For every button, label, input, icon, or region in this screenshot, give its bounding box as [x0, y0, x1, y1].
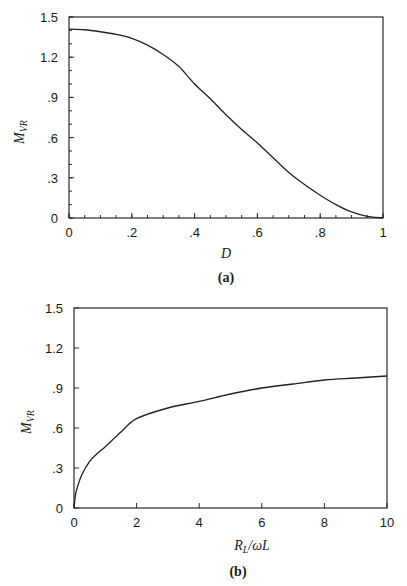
- x-tick-label: 0: [70, 515, 77, 530]
- y-tick-label: 0: [56, 501, 63, 516]
- x-tick-label: 6: [258, 515, 265, 530]
- ticks-b: [74, 308, 387, 508]
- x-tick-label: .8: [315, 225, 326, 240]
- data-curve-b: [74, 376, 387, 508]
- x-tick-label: 10: [380, 515, 394, 530]
- y-tick-label: 1.5: [45, 301, 63, 316]
- ticks-a: [69, 17, 383, 218]
- y-tick-label: 1.5: [40, 10, 58, 25]
- data-curve-a: [69, 29, 383, 218]
- tick-labels-b: 02468100.3.6.91.21.5: [45, 301, 394, 530]
- chart-panel-a: 0.2.4.6.810.3.6.91.21.5 MVR D (a): [12, 10, 387, 286]
- y-axis-label-a: MVR: [12, 120, 29, 145]
- x-tick-label: .2: [126, 225, 137, 240]
- x-axis-label-a: D: [220, 246, 231, 261]
- y-tick-label: .9: [47, 90, 58, 105]
- panel-caption-a: (a): [218, 270, 235, 286]
- plot-frame-b: [74, 308, 387, 508]
- x-tick-label: 4: [196, 515, 203, 530]
- y-tick-label: .6: [47, 131, 58, 146]
- x-axis-label-b: RL/ωL: [233, 538, 270, 555]
- y-axis-label-b: MVR: [19, 410, 36, 435]
- plot-frame-a: [69, 17, 383, 218]
- chart-panel-b: 02468100.3.6.91.21.5 MVR RL/ωL (b): [19, 301, 394, 580]
- y-tick-label: .3: [52, 461, 63, 476]
- y-tick-label: 0: [51, 211, 58, 226]
- x-tick-label: 0: [65, 225, 72, 240]
- y-tick-label: 1.2: [45, 341, 63, 356]
- y-tick-label: .6: [52, 421, 63, 436]
- figure: 0.2.4.6.810.3.6.91.21.5 MVR D (a) 024681…: [0, 0, 407, 586]
- x-tick-label: 2: [133, 515, 140, 530]
- x-tick-label: .4: [189, 225, 200, 240]
- y-tick-label: 1.2: [40, 50, 58, 65]
- x-tick-label: .6: [252, 225, 263, 240]
- x-tick-label: 8: [321, 515, 328, 530]
- y-tick-label: .9: [52, 381, 63, 396]
- tick-labels-a: 0.2.4.6.810.3.6.91.21.5: [40, 10, 387, 240]
- x-tick-label: 1: [379, 225, 386, 240]
- panel-caption-b: (b): [229, 564, 246, 580]
- y-tick-label: .3: [47, 171, 58, 186]
